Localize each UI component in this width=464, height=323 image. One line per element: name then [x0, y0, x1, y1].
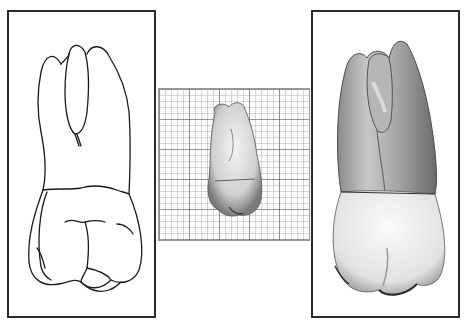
- tooth-photo-small: [159, 89, 311, 242]
- enlarged-photo-panel: [311, 10, 460, 318]
- graph-paper-panel: [158, 88, 310, 241]
- tooth-line-drawing: [9, 12, 158, 320]
- line-drawing-panel: [7, 10, 156, 318]
- tooth-photo-enlarged: [313, 12, 462, 320]
